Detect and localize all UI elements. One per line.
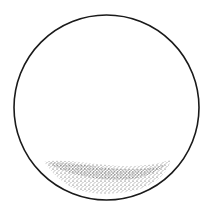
diagram-canvas <box>0 0 207 214</box>
diagram-svg <box>0 0 207 214</box>
